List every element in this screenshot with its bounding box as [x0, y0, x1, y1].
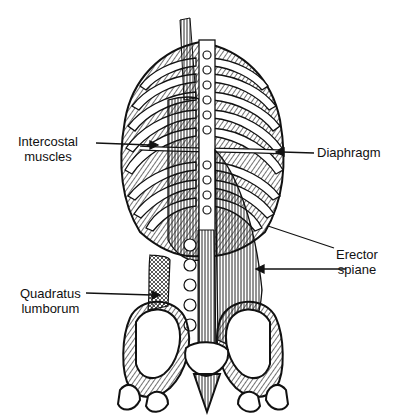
label-diaphragm: Diaphragm	[317, 145, 381, 160]
label-quadratus-line2: lumborum	[20, 301, 81, 316]
label-intercostal-line2: muscles	[18, 149, 78, 164]
label-intercostal-muscles: Intercostal muscles	[18, 134, 78, 164]
label-erector-spinae: Erector spiane	[336, 247, 378, 277]
label-erector-line2: spiane	[336, 262, 378, 277]
label-quadratus-line1: Quadratus	[20, 286, 81, 301]
label-erector-line1: Erector	[336, 247, 378, 262]
label-quadratus-lumborum: Quadratus lumborum	[20, 286, 81, 316]
anatomy-illustration	[0, 0, 404, 420]
label-intercostal-line1: Intercostal	[18, 134, 78, 149]
label-diaphragm-line1: Diaphragm	[317, 145, 381, 160]
